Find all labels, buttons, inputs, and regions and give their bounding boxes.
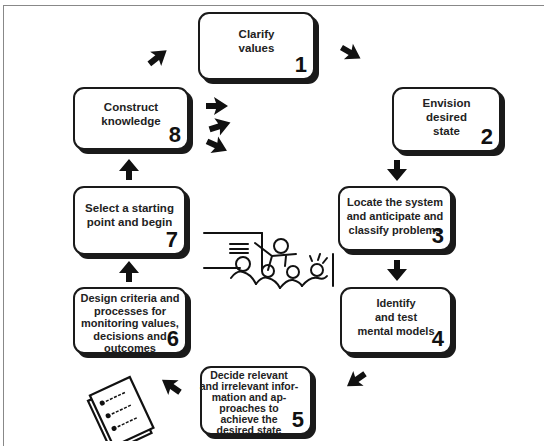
checklist-document-illustration bbox=[86, 377, 155, 441]
arrow-icon-output-1 bbox=[206, 97, 228, 115]
arrow-icon-8-to-1 bbox=[144, 43, 172, 71]
arrow-icon-2-to-3 bbox=[387, 160, 407, 181]
arrow-icon-1-to-2 bbox=[337, 40, 365, 67]
arrow-icon-5-to-6 bbox=[157, 372, 185, 399]
arrow-icon-6-to-7 bbox=[119, 261, 139, 282]
classroom-teacher-illustration bbox=[204, 233, 333, 288]
arrow-icon-output-2 bbox=[207, 114, 233, 138]
arrow-icon-7-to-8 bbox=[119, 159, 139, 180]
arrow-icon-output-3 bbox=[203, 133, 231, 159]
arrow-icon-4-to-5 bbox=[342, 366, 370, 393]
arrow-icon-3-to-4 bbox=[387, 260, 407, 281]
